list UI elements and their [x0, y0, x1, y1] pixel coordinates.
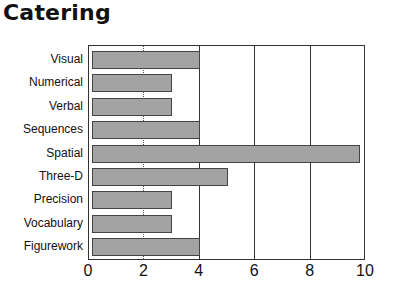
bar-spatial	[92, 145, 360, 163]
category-label: Visual	[51, 52, 83, 66]
category-label: Verbal	[49, 99, 83, 113]
x-tick-label: 4	[194, 262, 203, 280]
bar-visual	[92, 51, 200, 69]
category-label: Figurework	[24, 239, 83, 253]
x-tick-label: 0	[84, 262, 93, 280]
bar-three-d	[92, 168, 228, 186]
category-label: Sequences	[23, 122, 83, 136]
category-label: Three-D	[39, 169, 83, 183]
bar-sequences	[92, 121, 200, 139]
plot-area	[88, 45, 365, 260]
x-tick-label: 6	[250, 262, 259, 280]
category-label: Numerical	[29, 75, 83, 89]
bar-vocabulary	[92, 215, 172, 233]
x-tick-label: 10	[356, 262, 374, 280]
bar-precision	[92, 191, 172, 209]
x-tick-label: 8	[305, 262, 314, 280]
x-tick-label: 2	[139, 262, 148, 280]
category-label: Vocabulary	[24, 216, 83, 230]
bar-verbal	[92, 98, 172, 116]
chart-title: Catering	[3, 0, 111, 25]
category-label: Precision	[34, 192, 83, 206]
bar-numerical	[92, 74, 172, 92]
bar-figurework	[92, 238, 200, 256]
category-label: Spatial	[46, 146, 83, 160]
